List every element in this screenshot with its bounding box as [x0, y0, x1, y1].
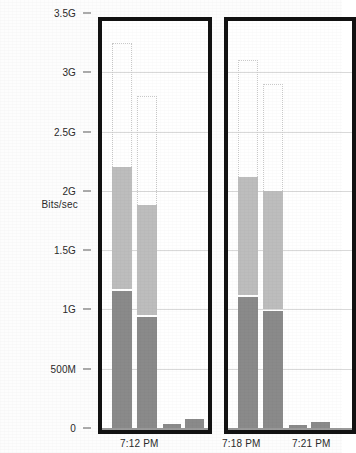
bar-segment-upper	[238, 177, 258, 296]
bar-segment-lower	[263, 311, 283, 430]
y-tick-mark	[83, 190, 91, 191]
plot-area	[228, 21, 352, 430]
y-tick-label: 1.5G	[0, 245, 76, 256]
bar-segment-lower	[137, 317, 157, 430]
bar-segment-upper	[263, 191, 283, 310]
y-tick-mark	[83, 368, 91, 369]
bar-segment-upper	[137, 205, 157, 315]
x-tick-label: 7:18 PM	[222, 438, 261, 449]
bar[interactable]	[137, 205, 157, 430]
y-tick-label: 3.5G	[0, 8, 76, 19]
ghost-outline	[112, 43, 132, 168]
bar[interactable]	[112, 167, 132, 430]
baseline	[228, 428, 352, 430]
bar-segment-lower	[238, 297, 258, 430]
bar-segment-upper	[112, 167, 132, 289]
plot-area	[102, 21, 208, 430]
y-tick-label: 2.5G	[0, 126, 76, 137]
bar[interactable]	[263, 191, 283, 430]
ghost-outline	[238, 60, 258, 176]
y-tick-mark	[83, 309, 91, 310]
ghost-outline	[137, 96, 157, 205]
baseline	[102, 428, 208, 430]
y-axis-title: Bits/sec	[4, 199, 78, 210]
x-tick-label: 7:12 PM	[120, 438, 159, 449]
y-tick-mark	[83, 131, 91, 132]
y-tick-mark	[83, 72, 91, 73]
plot-panel-left	[98, 17, 212, 434]
y-tick-mark	[83, 13, 91, 14]
y-tick-label: 500M	[0, 363, 76, 374]
y-tick-label: 0	[0, 423, 76, 434]
ghost-outline	[263, 84, 283, 191]
plot-panel-right	[224, 17, 356, 434]
bar-segment-lower	[112, 291, 132, 430]
x-tick-label: 7:21 PM	[292, 438, 331, 449]
bar[interactable]	[238, 177, 258, 430]
y-tick-label: 3G	[0, 67, 76, 78]
y-tick-label: 1G	[0, 304, 76, 315]
y-tick-label: 2G	[0, 185, 76, 196]
y-tick-mark	[83, 250, 91, 251]
y-tick-mark	[83, 428, 91, 429]
